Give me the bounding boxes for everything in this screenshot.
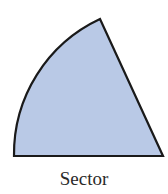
figure-caption: Sector — [0, 168, 168, 190]
sector-shape — [14, 19, 163, 156]
sector-diagram — [0, 0, 168, 194]
